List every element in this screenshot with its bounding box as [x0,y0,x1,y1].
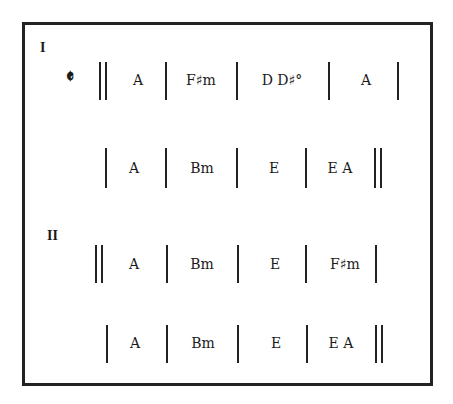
chord: Bm [190,160,214,176]
chord: Bm [190,256,214,272]
bar-line [397,62,399,100]
chord: E A [328,160,353,176]
bar-line [236,148,238,188]
chord: E A [329,335,354,351]
final-double-bar-line [374,148,376,188]
bar-line [305,245,307,283]
final-double-bar-line [381,325,383,363]
bar-line [306,325,308,363]
chord: A [133,72,143,88]
chord: Bm [191,335,215,351]
final-double-bar-line [380,148,382,188]
bar-line [236,62,238,100]
chord: A [361,72,371,88]
chord: E [271,335,281,351]
double-bar-line [95,245,97,283]
bar-line [375,245,377,283]
bar-line [166,325,168,363]
bar-line [106,325,108,363]
chord: F♯m [186,72,216,88]
bar-line [237,325,239,363]
double-bar-line [99,62,101,100]
chord: E [270,256,280,272]
section-label-i: I [40,40,45,56]
chord: E [269,160,279,176]
final-double-bar-line [375,325,377,363]
section-label-ii: II [47,228,58,244]
double-bar-line [105,62,107,100]
bar-line [237,245,239,283]
bar-line [166,245,168,283]
chord: F♯m [330,256,360,272]
chord: A [129,256,139,272]
bar-line [105,148,107,188]
bar-line [305,148,307,188]
bar-line [328,62,330,100]
double-bar-line [101,245,103,283]
chord: A [130,335,140,351]
chord: A [129,160,139,176]
cut-time-signature-icon: 𝄵 [66,66,74,88]
bar-line [165,148,167,188]
chord-chart-frame [22,22,433,386]
bar-line [165,62,167,100]
chord: D D♯° [262,72,303,88]
